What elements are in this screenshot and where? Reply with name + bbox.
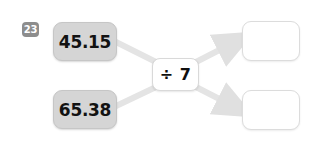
arrow-operator-to-answer2 <box>196 87 235 107</box>
arrow-operator-to-answer1 <box>196 42 235 62</box>
question-number-badge: 23 <box>22 22 39 37</box>
arrow-input2-to-operator <box>114 87 156 107</box>
function-machine-widget: 23 45.15 65.38 ÷ 7 <box>0 0 320 146</box>
answer-box-1[interactable] <box>242 21 300 61</box>
operator-box: ÷ 7 <box>152 58 199 91</box>
input-value-box-1: 45.15 <box>53 22 117 61</box>
answer-box-2[interactable] <box>242 90 300 130</box>
input-value-box-2: 65.38 <box>53 90 117 129</box>
arrow-input1-to-operator <box>114 41 156 62</box>
